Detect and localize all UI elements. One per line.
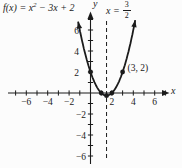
point-label: (3, 2) — [128, 63, 149, 74]
x-tick-label: 2 — [110, 97, 115, 107]
y-tick-label: 2 — [74, 68, 79, 78]
x-tick-label: −4 — [43, 97, 53, 107]
symmetry-line-label-prefix: x = — [106, 6, 120, 16]
symmetry-line-label: x = 3 2 — [106, 1, 131, 21]
data-point — [120, 70, 125, 75]
data-point — [104, 93, 109, 98]
data-point — [99, 91, 104, 96]
graph-canvas: −6−4−2246642−2−4−6(3, 2) — [0, 0, 182, 168]
y-axis-label: y — [93, 0, 97, 9]
y-tick-label: −4 — [76, 131, 86, 141]
y-axis-arrowhead-icon — [88, 12, 94, 20]
x-tick-label: −2 — [64, 97, 74, 107]
x-tick-label: 4 — [131, 97, 136, 107]
function-equation-suffix: − 3x + 2 — [37, 2, 75, 13]
function-equation-label: f(x) = x2 − 3x + 2 — [3, 3, 75, 13]
symmetry-line-fraction: 3 2 — [123, 1, 131, 21]
y-tick-label: 4 — [74, 47, 79, 57]
function-graph-figure: −6−4−2246642−2−4−6(3, 2) f(x) = x2 − 3x … — [0, 0, 182, 168]
y-tick-label: −6 — [76, 152, 86, 162]
x-tick-label: 6 — [152, 97, 157, 107]
function-equation-prefix: f(x) = x — [3, 2, 33, 13]
data-point — [110, 91, 115, 96]
data-point — [88, 70, 93, 75]
y-tick-label: −2 — [76, 110, 86, 120]
fraction-denominator: 2 — [123, 10, 131, 21]
x-tick-label: −6 — [21, 97, 31, 107]
fraction-numerator: 3 — [125, 1, 129, 10]
x-axis-label: x — [171, 86, 175, 96]
